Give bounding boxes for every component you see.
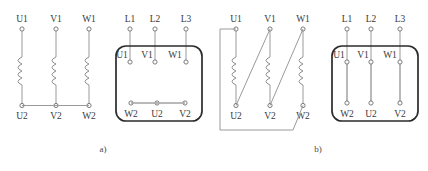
terminal-dot-b-l2[interactable]	[369, 27, 373, 31]
label-b-l3: L3	[395, 14, 406, 24]
panel-b-winding: U1 U2 V1 V2 W1 W2	[220, 14, 310, 130]
label-b-box-v2: V2	[394, 109, 406, 119]
terminal-dot-b-l3[interactable]	[398, 27, 402, 31]
label-a-w2: W2	[82, 111, 96, 121]
label-b-v2: V2	[264, 111, 276, 121]
terminal-dot-a-box-u1[interactable]	[128, 60, 132, 64]
winding-a-phase-u: U1 U2	[16, 14, 28, 121]
label-b-u1: U1	[230, 14, 242, 24]
label-b-box-w1: W1	[383, 50, 397, 60]
label-a-l2: L2	[150, 14, 161, 24]
label-b-box-u2: U2	[365, 109, 377, 119]
label-a-u2: U2	[16, 111, 28, 121]
label-a-l1: L1	[125, 14, 136, 24]
terminal-dot-a-u1[interactable]	[20, 27, 24, 31]
delta-bridge-b-w1-v2	[270, 29, 303, 106]
caption-a: a)	[100, 144, 107, 154]
terminal-dot-b-box-v2[interactable]	[398, 101, 402, 105]
label-b-l1: L1	[342, 14, 353, 24]
label-a-box-w1: W1	[168, 50, 182, 60]
terminal-dot-a-v1[interactable]	[54, 27, 58, 31]
terminal-dot-b-box-w1[interactable]	[398, 60, 402, 64]
terminal-dot-a-box-w1[interactable]	[184, 60, 188, 64]
terminal-dot-a-l2[interactable]	[153, 27, 157, 31]
label-b-l2: L2	[366, 14, 377, 24]
label-b-box-w2: W2	[340, 109, 354, 119]
terminal-dot-b-l1[interactable]	[345, 27, 349, 31]
connection-diagram-svg: U1 U2 V1 V2 W1 W2	[0, 0, 428, 171]
winding-b-phase-w: W1 W2	[296, 14, 310, 121]
terminal-dot-a-box-v1[interactable]	[153, 60, 157, 64]
delta-bridge-b-v1-u2	[236, 29, 270, 106]
terminal-dot-b-box-v1[interactable]	[369, 60, 373, 64]
terminal-dot-b-box-w2[interactable]	[345, 101, 349, 105]
terminal-dot-a-w1[interactable]	[87, 27, 91, 31]
winding-a-phase-w: W1 W2	[82, 14, 96, 121]
label-a-u1: U1	[16, 14, 28, 24]
label-b-u2: U2	[230, 111, 242, 121]
winding-a-phase-v: V1 V2	[50, 14, 62, 121]
panel-b-terminal-box: L1 L2 L3 U1 V1 W1 W2 U2 V2	[332, 14, 418, 121]
label-a-l3: L3	[181, 14, 192, 24]
label-b-w1: W1	[296, 14, 310, 24]
caption-b: b)	[314, 144, 322, 154]
panel-a-winding: U1 U2 V1 V2 W1 W2	[16, 14, 96, 121]
terminal-dot-b-box-u1[interactable]	[345, 60, 349, 64]
label-b-v1: V1	[264, 14, 276, 24]
terminal-dot-a-l1[interactable]	[128, 27, 132, 31]
label-b-box-v1: V1	[357, 50, 369, 60]
label-a-v1: V1	[50, 14, 62, 24]
figure-root: U1 U2 V1 V2 W1 W2	[0, 0, 428, 171]
label-a-box-v1: V1	[141, 50, 153, 60]
label-a-box-v2: V2	[179, 109, 191, 119]
panel-a-terminal-box: L1 L2 L3 U1 V1 W1 W2 U2 V2	[116, 14, 202, 121]
label-a-box-w2: W2	[124, 109, 138, 119]
label-a-box-u2: U2	[151, 109, 163, 119]
terminal-dot-a-l3[interactable]	[184, 27, 188, 31]
label-a-box-u1: U1	[116, 50, 128, 60]
terminal-dot-b-box-u2[interactable]	[369, 101, 373, 105]
label-a-w1: W1	[82, 14, 96, 24]
label-a-v2: V2	[50, 111, 62, 121]
label-b-box-u1: U1	[333, 50, 345, 60]
